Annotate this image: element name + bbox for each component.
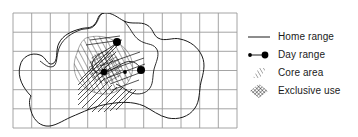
day-range-point bbox=[137, 66, 145, 74]
legend-item-home-range: Home range bbox=[246, 28, 358, 46]
cross-hatch-symbol bbox=[246, 82, 272, 100]
day-range-point bbox=[101, 69, 107, 75]
home-range-figure: Home range Day range Core area bbox=[0, 0, 358, 137]
legend-item-exclusive-use: Exclusive use bbox=[246, 82, 358, 100]
legend-label-day-range: Day range bbox=[272, 46, 325, 64]
legend-label-exclusive-use: Exclusive use bbox=[272, 82, 340, 100]
line-symbol bbox=[246, 28, 272, 46]
legend-label-home-range: Home range bbox=[272, 28, 334, 46]
legend-label-core-area: Core area bbox=[272, 64, 323, 82]
diagonal-hatch-symbol bbox=[246, 64, 272, 82]
day-range-point bbox=[113, 38, 121, 46]
legend-item-day-range: Day range bbox=[246, 46, 358, 64]
legend: Home range Day range Core area bbox=[246, 28, 358, 100]
day-range-point bbox=[123, 70, 127, 74]
dot-line-symbol bbox=[246, 46, 272, 64]
legend-item-core-area: Core area bbox=[246, 64, 358, 82]
